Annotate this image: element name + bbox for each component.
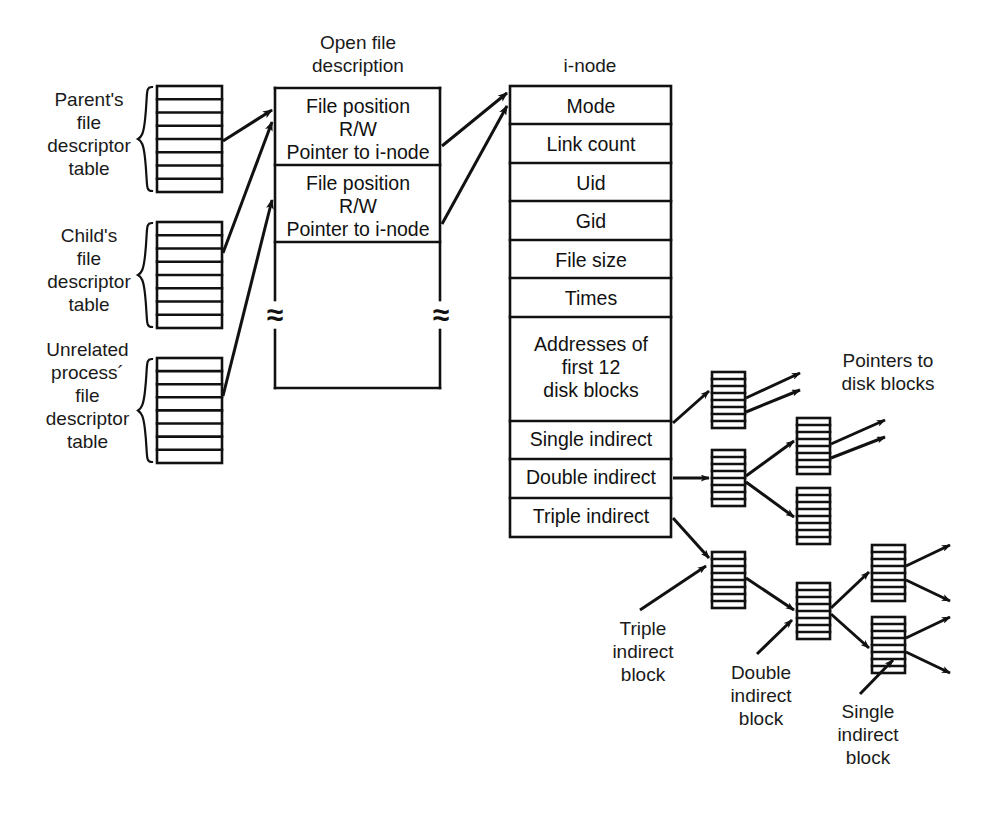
arrow-callout-double [757, 620, 792, 654]
arrow-blocke-to-blockf [746, 578, 794, 610]
inode-row-addresses: Addresses of first 12 disk blocks [510, 333, 672, 402]
inode-row-uid: Uid [510, 172, 672, 195]
break-mark-right: ≈ [428, 300, 454, 330]
fd-table-label-unrelated: Unrelated process´ file descriptor table [30, 338, 145, 453]
arrow-blockh-out-2 [906, 652, 950, 673]
inode-row-triple-indirect: Triple indirect [508, 505, 674, 528]
inode-row-single-indirect: Single indirect [508, 428, 674, 451]
inode-row-double-indirect: Double indirect [508, 466, 674, 489]
diagram-vector-layer [0, 0, 982, 814]
indirect-block-h [872, 617, 905, 673]
pointers-to-disk-blocks-heading: Pointers to disk blocks [818, 349, 958, 395]
arrow-blockh-out-1 [906, 617, 950, 638]
indirect-block-f [797, 583, 830, 639]
arrow-callout-triple [640, 566, 706, 610]
diagram-canvas: Parent's file descriptor table Child's f… [0, 0, 982, 814]
break-mark-left: ≈ [262, 300, 288, 330]
fd-table-label-child: Child's file descriptor table [34, 224, 144, 316]
arrow-blockc-out-2 [831, 437, 885, 458]
callout-double-indirect-block: Double indirect block [713, 661, 809, 730]
open-file-entry-1-line3: Pointer to i-node [272, 218, 444, 241]
arrow-triple-indirect-to-block [673, 518, 709, 558]
inode-row-gid: Gid [510, 210, 672, 233]
inode-row-times: Times [510, 287, 672, 310]
indirect-block-b [712, 450, 745, 506]
arrow-blockb-to-blockc [746, 441, 794, 476]
indirect-block-d [797, 488, 830, 544]
arrow-blockg-out-1 [906, 545, 950, 566]
inode-heading: i-node [540, 54, 640, 77]
arrow-blocka-out-2 [746, 390, 800, 412]
open-file-entry-1-line2: R/W [275, 195, 441, 218]
arrow-blockc-out-1 [831, 420, 885, 444]
arrow-child-to-ofd1 [223, 122, 272, 253]
arrow-callout-single [860, 660, 893, 694]
arrow-blocka-out-1 [746, 373, 800, 398]
open-file-entry-0-line2: R/W [275, 118, 441, 141]
arrow-single-indirect-to-block [673, 391, 709, 423]
fd-table-unrelated [157, 358, 222, 463]
arrow-parent-to-ofd1 [223, 110, 272, 141]
arrow-unrelated-to-ofd2 [223, 200, 272, 396]
indirect-block-a [712, 372, 745, 428]
arrow-ofd1-to-inode [442, 93, 507, 146]
arrow-ofd2-to-inode [442, 106, 507, 224]
arrow-blockf-to-blockh [831, 614, 869, 648]
fd-table-parent [157, 86, 222, 192]
arrow-blockb-to-blockd [746, 482, 794, 517]
open-file-description-heading: Open file description [283, 31, 433, 77]
open-file-entry-0-line1: File position [275, 95, 441, 118]
indirect-block-c [797, 418, 830, 474]
fd-table-child [157, 222, 222, 328]
inode-row-link-count: Link count [510, 133, 672, 156]
indirect-block-e [712, 552, 745, 608]
inode-row-mode: Mode [510, 95, 672, 118]
inode-row-file-size: File size [510, 249, 672, 272]
open-file-entry-0-line3: Pointer to i-node [272, 141, 444, 164]
callout-single-indirect-block: Single indirect block [820, 700, 916, 769]
fd-table-label-parent: Parent's file descriptor table [34, 88, 144, 180]
indirect-block-g [872, 545, 905, 601]
arrow-blockf-to-blockg [831, 572, 869, 608]
callout-triple-indirect-block: Triple indirect block [598, 617, 688, 686]
arrow-blockg-out-2 [906, 580, 950, 601]
open-file-entry-1-line1: File position [275, 172, 441, 195]
